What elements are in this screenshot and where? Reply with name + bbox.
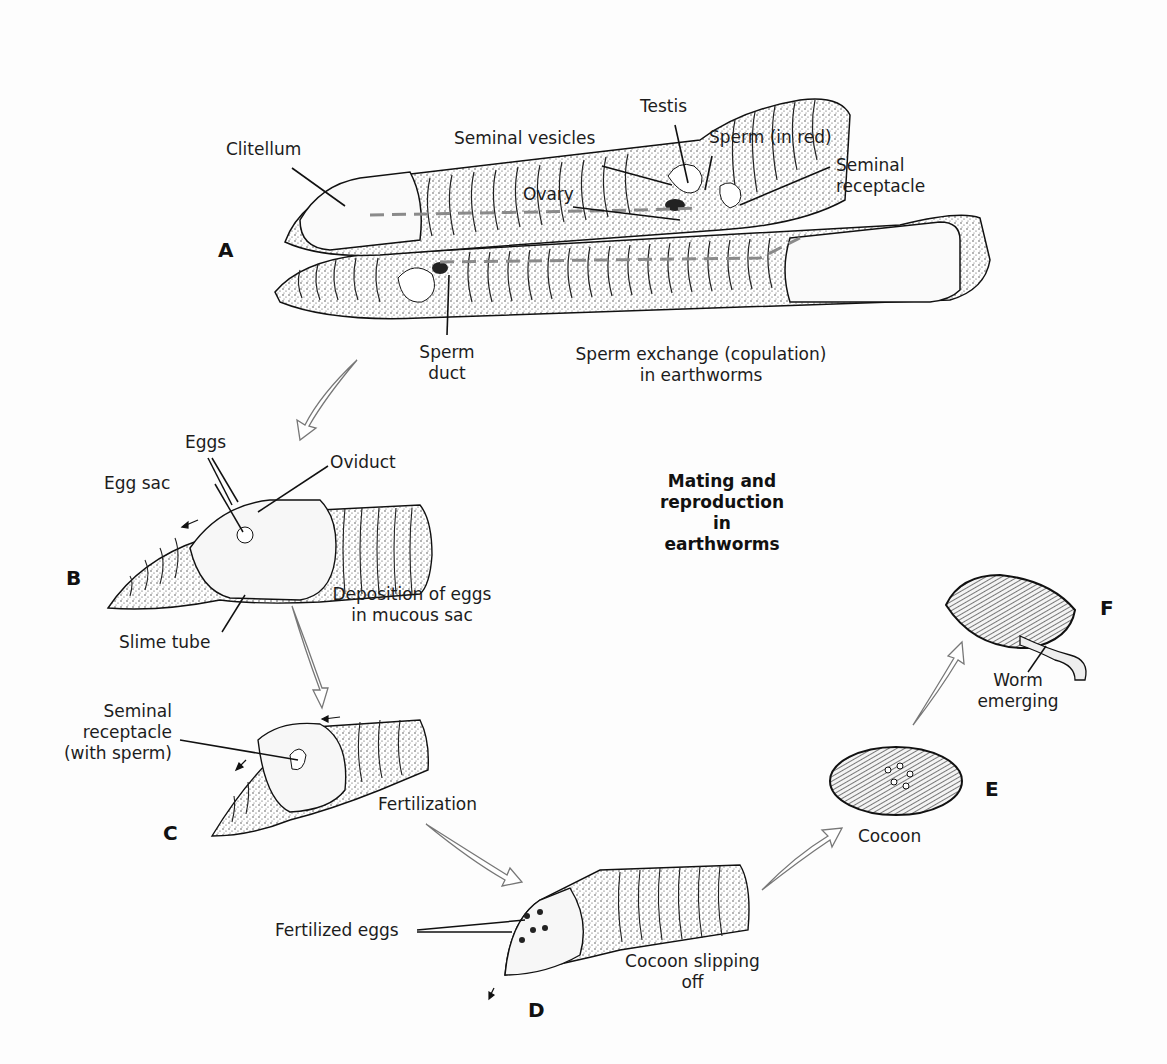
- caption-d: Cocoon slipping off: [620, 951, 765, 993]
- caption-line: emerging: [968, 691, 1068, 712]
- arrow-d-to-e: [762, 828, 842, 890]
- label-seminal-receptacle-a: Seminal receptacle: [836, 155, 925, 197]
- caption-line: Worm: [968, 670, 1068, 691]
- caption-a: Sperm exchange (copulation) in earthworm…: [556, 344, 846, 386]
- panel-letter-f: F: [1100, 596, 1114, 620]
- label-line: receptacle: [836, 176, 925, 197]
- arrow-a-to-b: [297, 360, 357, 440]
- label-testis: Testis: [640, 96, 687, 117]
- label-seminal-receptacle-c: Seminal receptacle (with sperm): [50, 701, 172, 764]
- caption-b: Deposition of eggs in mucous sac: [312, 584, 512, 626]
- label-clitellum: Clitellum: [226, 139, 301, 160]
- label-line: Seminal: [836, 155, 925, 176]
- label-sperm-duct: Sperm duct: [412, 342, 482, 384]
- worm-pair-a: [275, 99, 990, 319]
- label-fertilized-eggs: Fertilized eggs: [275, 920, 399, 941]
- label-egg-sac: Egg sac: [104, 473, 170, 494]
- cocoon-f: [946, 575, 1086, 680]
- caption-f: Worm emerging: [968, 670, 1068, 712]
- earthworm-illustration: [0, 0, 1167, 1064]
- panel-letter-a: A: [218, 238, 233, 262]
- leader-lines-d: [417, 920, 525, 932]
- label-slime-tube: Slime tube: [119, 632, 210, 653]
- caption-line: Cocoon slipping: [620, 951, 765, 972]
- panel-letter-c: C: [163, 821, 178, 845]
- label-ovary: Ovary: [523, 184, 574, 205]
- panel-letter-e: E: [985, 777, 999, 801]
- label-line: Seminal: [50, 701, 172, 722]
- label-seminal-vesicles: Seminal vesicles: [454, 128, 595, 149]
- label-line: (with sperm): [50, 743, 172, 764]
- label-line: receptacle: [50, 722, 172, 743]
- arrow-e-to-f: [913, 642, 964, 725]
- title-line-1: Mating and: [642, 471, 802, 492]
- caption-line: in mucous sac: [312, 605, 512, 626]
- worm-c: [212, 720, 428, 836]
- title-line-3: in: [642, 513, 802, 534]
- caption-line: in earthworms: [556, 365, 846, 386]
- caption-line: off: [620, 972, 765, 993]
- caption-line: Sperm exchange (copulation): [556, 344, 846, 365]
- label-oviduct: Oviduct: [330, 452, 396, 473]
- diagram-title: Mating and reproduction in earthworms: [642, 471, 802, 555]
- caption-c: Fertilization: [378, 794, 477, 815]
- title-line-2: reproduction: [642, 492, 802, 513]
- panel-letter-b: B: [66, 566, 81, 590]
- label-line: Sperm: [412, 342, 482, 363]
- label-line: duct: [412, 363, 482, 384]
- title-line-4: earthworms: [642, 534, 802, 555]
- label-eggs: Eggs: [185, 432, 226, 453]
- arrow-c-to-d: [426, 824, 522, 886]
- caption-line: Deposition of eggs: [312, 584, 512, 605]
- caption-e: Cocoon: [858, 826, 921, 847]
- panel-letter-d: D: [528, 998, 545, 1022]
- label-sperm-in-red: Sperm (in red): [709, 127, 832, 148]
